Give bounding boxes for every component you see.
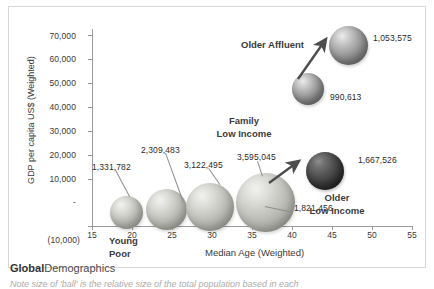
value-label-990613: 990,613 [330,92,361,102]
x-tick-55: 55 [397,230,426,240]
chart-footnote: Note size of 'ball' is the relative size… [10,279,299,289]
segment-label-older-low-income: Older Low Income [302,192,372,217]
chart-screenshot: 70,000 60,000 50,000 40,000 30,000 20,00… [0,0,434,289]
y-tick-negative-10000: (10,000) [22,235,80,245]
segment-label-older-affluent: Older Affluent [241,39,304,52]
brand-logo-bold: Global [10,262,44,274]
bubble-family-low-income-1[interactable] [186,183,234,231]
y-axis-title: GDP per capita US$ (Weighted) [26,36,36,204]
x-tick-50: 50 [357,230,387,240]
y-tick-mark [88,155,92,156]
x-tick-45: 45 [317,230,347,240]
x-tick-15: 15 [77,230,107,240]
value-label-2309483: 2,309,483 [141,145,180,155]
y-tick-mark [88,131,92,132]
bubble-young-poor-1[interactable] [110,196,143,229]
y-tick-mark [88,179,92,180]
value-label-1667526: 1,667,526 [358,155,397,165]
x-axis-title: Median Age (Weighted) [205,247,304,258]
segment-label-line: Older [302,192,372,205]
y-tick-mark [88,59,92,60]
chart-plot-frame: 70,000 60,000 50,000 40,000 30,000 20,00… [8,6,426,268]
segment-label-line: Poor [109,248,138,261]
brand-logo-rest: Demographics [44,262,115,274]
segment-label-line: Low Income [205,128,283,141]
y-axis-line [92,29,93,227]
value-label-3122495: 3,122,495 [184,160,223,170]
x-tick-30: 30 [197,230,227,240]
segment-label-family-low-income: Family Low Income [205,115,283,140]
segment-label-line: Low Income [302,205,372,218]
brand-logo: GlobalDemographics [10,262,115,274]
x-tick-35: 35 [237,230,267,240]
arrow-older-affluent [295,29,343,83]
segment-label-line: Family [205,115,283,128]
arrow-older-low-income [267,155,313,187]
x-tick-25: 25 [157,230,187,240]
y-tick-mark [88,35,92,36]
y-tick-mark [88,83,92,84]
leader-line [115,170,130,197]
value-label-1053575: 1,053,575 [373,33,412,43]
segment-label-line: Older Affluent [241,39,304,52]
x-tick-40: 40 [277,230,307,240]
x-tick-20: 20 [117,230,147,240]
y-tick-mark [88,107,92,108]
value-label-1331782: 1,331,782 [92,162,131,172]
